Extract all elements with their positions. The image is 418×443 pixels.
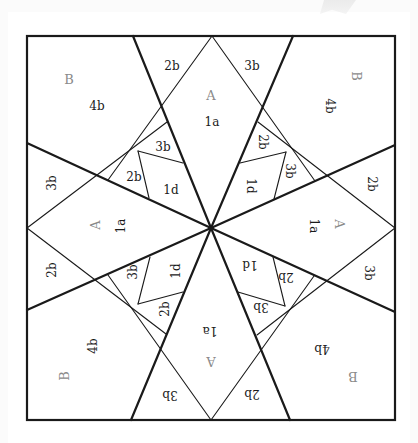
piece-label-3b: 3b (162, 388, 178, 402)
piece-label-3b: 3b (45, 175, 59, 191)
diamond-left-lower-edge (27, 228, 166, 334)
diamond-bottom-left-edge (108, 275, 211, 420)
bl-3b-1d-divider (138, 257, 150, 304)
piece-label-4b: 4b (86, 338, 100, 354)
piece-label-1d: 1d (242, 258, 258, 272)
piece-label-2b: 2b (256, 134, 270, 150)
template-label-a: A (332, 218, 347, 229)
diamond-top-left-edge (108, 36, 212, 180)
template-label-a: A (205, 88, 216, 103)
piece-label-4b: 4b (323, 98, 337, 114)
piece-label-1a: 1a (203, 324, 218, 338)
piece-label-3b: 3b (126, 264, 140, 280)
piece-label-1d: 1d (169, 263, 183, 279)
template-label-a: A (206, 354, 217, 369)
piece-label-3b: 3b (244, 59, 260, 73)
piece-label-3b: 3b (155, 140, 171, 154)
template-label-b: B (64, 72, 74, 87)
tr-2b-1d-divider (240, 152, 286, 163)
piece-label-1a: 1a (205, 115, 220, 129)
page-background: 2bA1a3bB4b3b2b1d2b3b1dB4b2bA1a3b3bA1a2b3… (0, 0, 418, 443)
piece-label-1a: 1a (307, 219, 321, 234)
diamond-bottom-right-edge (211, 276, 314, 420)
piece-label-2b: 2b (126, 170, 142, 184)
quilt-block-diagram: 2bA1a3bB4b3b2b1d2b3b1dB4b2bA1a3b3bA1a2b3… (0, 0, 418, 443)
piece-label-4b: 4b (314, 342, 330, 356)
template-label-b: B (57, 371, 72, 381)
piece-label-2b: 2b (45, 262, 59, 278)
template-label-b: B (349, 71, 364, 81)
piece-label-1d: 1d (163, 183, 179, 197)
piece-label-2b: 2b (244, 387, 260, 401)
piece-label-2b: 2b (278, 270, 294, 284)
piece-label-1a: 1a (114, 219, 128, 234)
piece-label-2b: 2b (158, 301, 172, 317)
diamond-top-right-edge (212, 36, 315, 181)
piece-label-3b: 3b (362, 265, 376, 281)
piece-label-2b: 2b (365, 176, 379, 192)
piece-label-1d: 1d (244, 178, 258, 194)
piece-label-4b: 4b (89, 99, 105, 113)
template-label-b: B (348, 369, 358, 384)
template-label-a: A (88, 220, 103, 231)
piece-label-3b: 3b (253, 300, 269, 314)
piece-label-3b: 3b (283, 163, 297, 179)
piece-label-2b: 2b (164, 59, 180, 73)
